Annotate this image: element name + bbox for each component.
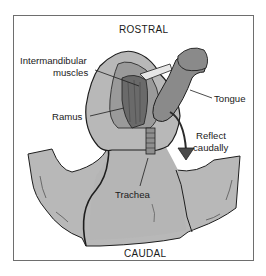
reflect-label-line1: Reflect — [196, 130, 226, 141]
reflect-arrow-head — [178, 148, 194, 160]
intermandibular-label-line1: Intermandibular — [20, 55, 87, 66]
intermandibular-label-line2: muscles — [53, 67, 88, 78]
leader-tongue — [190, 90, 212, 98]
rostral-label: ROSTRAL — [119, 24, 168, 35]
caudal-label: CAUDAL — [124, 248, 166, 259]
tongue-label: Tongue — [214, 93, 245, 104]
ramus-label: Ramus — [52, 111, 82, 122]
tongue-upper — [178, 48, 208, 71]
neck-dissection-illustration — [0, 0, 266, 276]
reflect-label-line2: caudally — [193, 142, 228, 153]
trachea-label: Trachea — [115, 189, 150, 200]
trachea — [146, 128, 155, 154]
